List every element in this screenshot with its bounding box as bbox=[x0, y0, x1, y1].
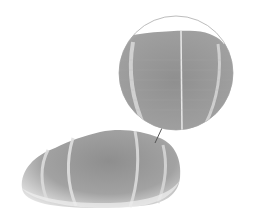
figure-canvas bbox=[0, 0, 255, 223]
segmented-object bbox=[22, 130, 181, 208]
magnified-inset bbox=[110, 16, 240, 140]
inset-center-groove bbox=[181, 31, 182, 130]
